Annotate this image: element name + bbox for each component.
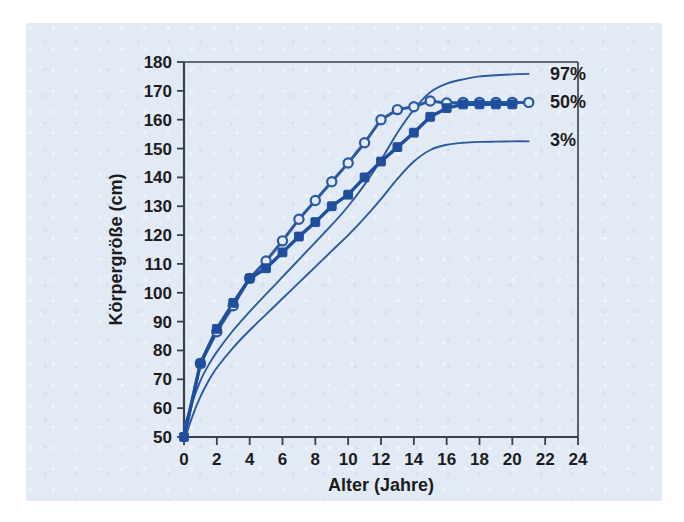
x-tick-label: 14: [404, 450, 423, 469]
percentile-curve-97pct: [184, 74, 529, 427]
growth-chart-plot: 5060708090100110120130140150160170180024…: [0, 0, 684, 522]
data-point-marker: [311, 196, 320, 205]
curves-layer: [184, 74, 529, 442]
data-point-marker: [294, 215, 303, 224]
data-point-marker: [376, 115, 385, 124]
data-point-marker: [344, 190, 353, 199]
data-point-marker: [475, 100, 484, 109]
y-tick-label: 60: [153, 399, 172, 418]
data-point-marker: [360, 173, 369, 182]
y-tick-label: 140: [144, 168, 172, 187]
x-tick-label: 2: [212, 450, 221, 469]
data-point-marker: [393, 105, 402, 114]
y-tick-label: 120: [144, 226, 172, 245]
data-point-marker: [524, 98, 533, 107]
series-annotation-3pct: 3%: [550, 130, 576, 150]
x-tick-label: 0: [179, 450, 188, 469]
markers-layer: [180, 96, 534, 441]
data-point-marker: [262, 264, 271, 273]
data-point-marker: [278, 248, 287, 257]
x-tick-label: 4: [245, 450, 255, 469]
x-tick-label: 8: [311, 450, 320, 469]
growth-chart-figure: 5060708090100110120130140150160170180024…: [0, 0, 684, 522]
data-point-marker: [492, 100, 501, 109]
data-point-marker: [409, 128, 418, 137]
data-point-marker: [327, 177, 336, 186]
y-tick-label: 110: [145, 255, 172, 274]
data-point-marker: [393, 143, 402, 152]
y-tick-label: 50: [153, 428, 172, 447]
y-axis-title: Körpergröße (cm): [106, 173, 126, 325]
y-tick-label: 150: [144, 140, 172, 159]
y-axis-title-group: Körpergröße (cm): [106, 173, 126, 325]
measured-curve-1: [184, 101, 529, 437]
y-tick-label: 70: [153, 370, 172, 389]
data-point-marker: [508, 100, 517, 109]
measured-curve-3: [184, 104, 512, 437]
y-tick-label: 160: [144, 111, 172, 130]
y-tick-label: 80: [153, 341, 172, 360]
y-tick-label: 100: [144, 284, 172, 303]
y-tick-label: 130: [144, 197, 172, 216]
data-point-marker: [327, 202, 336, 211]
x-tick-label: 12: [372, 450, 391, 469]
x-tick-label: 6: [278, 450, 287, 469]
x-axis-title: Alter (Jahre): [328, 475, 434, 495]
x-tick-label: 16: [437, 450, 456, 469]
x-tick-label: 24: [569, 450, 588, 469]
data-point-marker: [459, 100, 468, 109]
y-tick-label: 180: [144, 53, 172, 72]
x-tick-label: 20: [503, 450, 522, 469]
data-point-marker: [229, 298, 238, 307]
data-point-marker: [180, 433, 189, 442]
y-tick-label: 90: [153, 313, 172, 332]
data-point-marker: [377, 157, 386, 166]
data-point-marker: [295, 232, 304, 241]
data-point-marker: [245, 274, 254, 283]
data-point-marker: [442, 104, 451, 113]
series-annotation-50pct: 50%: [550, 92, 586, 112]
data-point-marker: [344, 158, 353, 167]
data-point-marker: [196, 359, 205, 368]
data-point-marker: [426, 96, 435, 105]
data-point-marker: [426, 112, 435, 121]
data-point-marker: [278, 236, 287, 245]
x-tick-label: 18: [470, 450, 489, 469]
data-point-marker: [212, 324, 221, 333]
data-point-marker: [311, 218, 320, 227]
y-tick-label: 170: [144, 82, 172, 101]
series-annotation-97pct: 97%: [550, 64, 586, 84]
x-tick-label: 10: [339, 450, 358, 469]
data-point-marker: [409, 102, 418, 111]
x-tick-label: 22: [536, 450, 555, 469]
data-point-marker: [360, 138, 369, 147]
